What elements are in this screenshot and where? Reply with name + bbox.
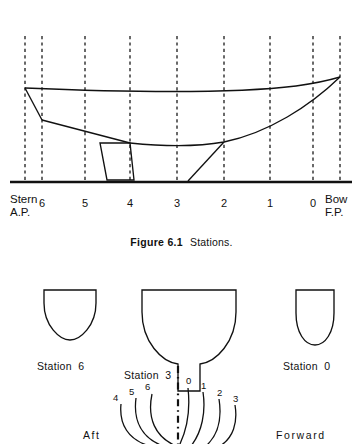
- aft-curve-5: [135, 398, 163, 444]
- forward-curves-group: [179, 388, 236, 444]
- curve-label-forward-3: 3: [233, 394, 238, 404]
- curve-label-aft-5: 5: [129, 387, 134, 397]
- curve-label-aft-4: 4: [113, 393, 118, 403]
- aft-curve-6: [151, 394, 176, 444]
- section-shape-station-0: [296, 290, 334, 345]
- aft-direction-label: Aft: [83, 430, 101, 441]
- curve-label-aft-6: 6: [145, 382, 150, 392]
- forward-curve-1: [191, 392, 204, 444]
- curve-label-forward-1: 1: [201, 381, 206, 391]
- forward-curve-0: [179, 388, 189, 444]
- section-label-station-0: Station 0: [283, 361, 330, 372]
- forward-curve-2: [206, 399, 220, 444]
- curve-label-forward-2: 2: [217, 388, 222, 398]
- bodyplan-drawing: [0, 0, 363, 444]
- forward-curve-3: [220, 405, 236, 444]
- curve-label-forward-0: 0: [186, 376, 191, 386]
- aft-curves-group: [121, 394, 176, 444]
- figure-6-1: Stern A.P. Bow F.P. 6 5 4 3 2 1 0 Figure…: [0, 0, 363, 444]
- section-shape-station-6: [44, 290, 96, 340]
- section-label-station-3: Station 3: [124, 370, 171, 381]
- forward-direction-label: Forward: [276, 430, 326, 441]
- section-label-station-6: Station 6: [37, 361, 84, 372]
